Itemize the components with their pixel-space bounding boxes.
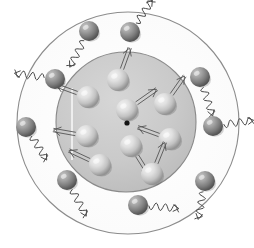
shell-particle-5: [16, 117, 36, 137]
shell-particle-4: [190, 67, 210, 87]
core-particle-8: [89, 154, 111, 176]
core-particle-7: [159, 128, 181, 150]
figure-root: [0, 0, 254, 248]
core-particle-6: [120, 135, 142, 157]
core-particle-4: [154, 93, 176, 115]
core-particle-3: [116, 99, 138, 121]
shell-particle-7: [57, 170, 77, 190]
shell-particle-9: [128, 195, 148, 215]
shell-particle-3: [45, 69, 65, 89]
shell-particle-2: [120, 22, 140, 42]
nucleus-center-dot: [124, 120, 129, 125]
core-particle-9: [141, 163, 163, 185]
shell-particle-1: [79, 21, 99, 41]
core-particle-1: [107, 69, 129, 91]
shell-particle-6: [203, 116, 223, 136]
atom-diagram-svg: [0, 0, 254, 248]
core-particle-5: [76, 125, 98, 147]
shell-particle-8: [195, 171, 215, 191]
core-particle-2: [77, 86, 99, 108]
